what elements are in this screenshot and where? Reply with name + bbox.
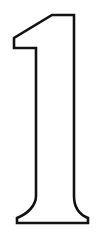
numeral-one-outline [0, 0, 100, 238]
artwork-canvas: Numeral One Outline 1 [0, 0, 100, 238]
